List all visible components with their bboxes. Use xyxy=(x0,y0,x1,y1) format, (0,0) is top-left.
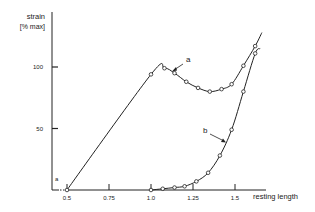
series-b-marker xyxy=(173,186,177,190)
series-group xyxy=(65,33,262,192)
curve-b-arrowhead xyxy=(221,139,226,143)
series-a-marker xyxy=(242,64,246,68)
y-axis-label: strain xyxy=(27,12,45,21)
series-a-marker xyxy=(149,73,153,77)
series-b-marker xyxy=(253,52,257,56)
x-tick-label: 0.75 xyxy=(103,195,115,201)
series-b-marker xyxy=(242,90,246,94)
curve-b-label: b xyxy=(203,126,208,135)
series-b-marker xyxy=(218,154,222,158)
x-axis-label: resting length xyxy=(253,192,298,201)
series-b-marker xyxy=(183,185,187,189)
axes xyxy=(52,12,266,190)
series-b-marker xyxy=(206,171,210,175)
series-a-marker xyxy=(163,66,167,70)
series-a-marker xyxy=(230,82,234,86)
y-tick-label: 50 xyxy=(36,126,43,132)
series-a-marker xyxy=(65,188,69,192)
series-b-marker xyxy=(149,188,153,192)
series-a-marker xyxy=(173,71,177,75)
x-tick-label: 1.5 xyxy=(231,195,240,201)
x-tick-label: 1.0 xyxy=(147,195,156,201)
series-a-marker xyxy=(220,87,224,91)
curve-a-label: a xyxy=(186,55,191,64)
series-b-line xyxy=(151,49,260,190)
y-axis-unit: [% max] xyxy=(20,23,45,31)
series-a-marker xyxy=(208,90,212,94)
annotations: a b a xyxy=(55,55,226,182)
series-b-marker xyxy=(161,187,165,191)
curve-b-arrow xyxy=(210,134,224,141)
series-a-marker xyxy=(253,44,257,48)
curve-a-arrowhead xyxy=(172,67,177,72)
y-ticks: 50100 xyxy=(33,64,58,132)
series-a-marker xyxy=(196,86,200,90)
x-ticks: 0.50.751.01.251.5 xyxy=(63,184,240,201)
x-tick-label: 1.25 xyxy=(187,195,199,201)
x-tick-label: 0.5 xyxy=(63,195,72,201)
series-a-marker xyxy=(184,80,188,84)
origin-a-label: a xyxy=(55,176,59,182)
series-b-marker xyxy=(195,180,199,184)
y-tick-label: 100 xyxy=(33,64,44,70)
chart: 0.50.751.01.251.5 50100 strain [% max] r… xyxy=(0,0,315,212)
series-b-marker xyxy=(230,128,234,132)
series-a-line xyxy=(67,33,262,190)
